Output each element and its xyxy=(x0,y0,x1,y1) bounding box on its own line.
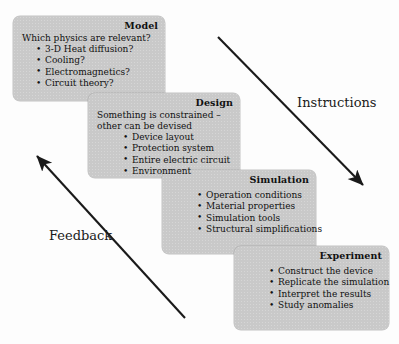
list-item: Interpret the results xyxy=(269,289,382,300)
card-experiment[interactable]: Experiment Construct the device Replicat… xyxy=(234,246,389,330)
list-item: Protection system xyxy=(123,143,233,154)
card-list-simulation: Operation conditions Material properties… xyxy=(171,187,309,236)
card-title-simulation: Simulation xyxy=(171,174,309,186)
list-item: Simulation tools xyxy=(197,213,309,224)
list-item: Electromagnetics? xyxy=(36,67,158,78)
card-model[interactable]: Model Which physics are relevant? 3-D He… xyxy=(13,16,165,101)
list-item: Study anomalies xyxy=(269,300,382,311)
list-item: Material properties xyxy=(197,201,309,212)
list-item: 3-D Heat diffusion? xyxy=(36,44,158,55)
diagram-canvas: Model Which physics are relevant? 3-D He… xyxy=(0,0,399,344)
list-item: Cooling? xyxy=(36,55,158,66)
list-item: Replicate the simulation xyxy=(269,277,382,288)
card-simulation[interactable]: Simulation Operation conditions Material… xyxy=(162,170,316,254)
arrow-label-feedback: Feedback xyxy=(49,228,112,243)
list-item: Device layout xyxy=(123,132,233,143)
list-item: Circuit theory? xyxy=(36,78,158,89)
card-title-design: Design xyxy=(97,97,233,109)
card-list-experiment: Construct the device Replicate the simul… xyxy=(243,263,382,312)
card-lead-design: Something is constrained – other can be … xyxy=(97,110,233,132)
list-item: Operation conditions xyxy=(197,190,309,201)
card-design[interactable]: Design Something is constrained – other … xyxy=(88,93,240,178)
card-title-model: Model xyxy=(22,20,158,32)
list-item: Entire electric circuit xyxy=(123,155,233,166)
card-list-model: 3-D Heat diffusion? Cooling? Electromagn… xyxy=(22,44,158,90)
card-list-design: Device layout Protection system Entire e… xyxy=(97,132,233,178)
arrow-label-instructions: Instructions xyxy=(297,95,377,110)
card-lead-model: Which physics are relevant? xyxy=(22,33,158,44)
card-title-experiment: Experiment xyxy=(243,250,382,262)
list-item: Construct the device xyxy=(269,266,382,277)
list-item: Structural simplifications xyxy=(197,224,309,235)
